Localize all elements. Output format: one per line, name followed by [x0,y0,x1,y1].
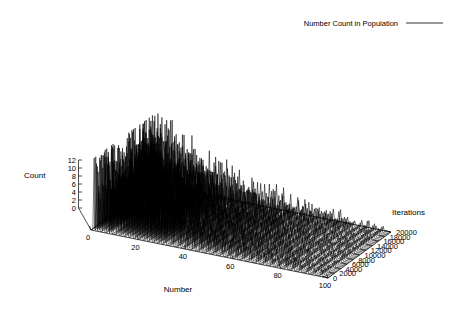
x-tick-label: 20 [131,243,139,252]
z-axis-title: Count [24,171,46,180]
legend-label-0: Number Count in Population [304,19,398,28]
x-tick-label: 0 [86,233,90,242]
z-tick-label: 8 [72,172,76,181]
plot-canvas: 0246810120204060801000200040006000800010… [0,0,461,310]
z-tick-label: 2 [72,196,76,205]
gnuplot-3d-surface-plot: 0246810120204060801000200040006000800010… [0,0,461,310]
y-tick-label: 20000 [396,228,417,237]
x-axis-title: Number [164,285,193,294]
y-tick-label: 0 [333,274,337,283]
x-tick-label: 60 [226,262,234,271]
y-axis-title: Iterations [392,208,425,217]
z-tick-label: 6 [72,180,76,189]
x-tick-label: 40 [179,252,187,261]
z-axis-stem [79,208,92,230]
z-tick-label: 0 [72,204,76,213]
legend: Number Count in Population [304,19,443,28]
z-tick-label: 4 [72,188,76,197]
z-axis [79,160,92,230]
z-tick-label: 10 [68,164,76,173]
x-tick-label: 80 [273,271,281,280]
x-tick-label: 100 [319,281,332,290]
z-tick-label: 12 [68,156,76,165]
